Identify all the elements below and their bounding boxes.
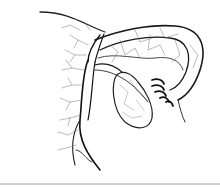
bottom-divider <box>0 183 220 185</box>
ligament-edge <box>40 12 105 32</box>
fallopian-tube-inner <box>100 37 189 90</box>
fine-vessels <box>58 22 90 150</box>
fimbriae <box>152 79 173 106</box>
illustration-canvas <box>0 0 220 182</box>
anatomy-illustration <box>0 0 220 182</box>
